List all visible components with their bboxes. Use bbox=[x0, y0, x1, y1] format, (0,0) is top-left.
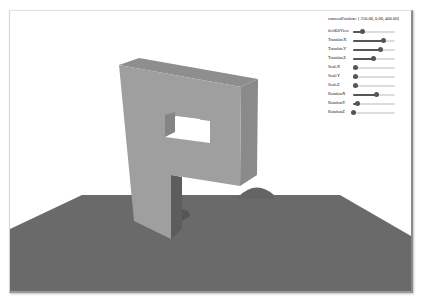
slider-thumb[interactable] bbox=[353, 74, 358, 79]
control-scale-z: ScaleZ bbox=[328, 82, 412, 90]
slider-label: RotationX bbox=[328, 92, 353, 96]
control-rotation-z: RotationZ bbox=[328, 109, 412, 117]
slider-thumb[interactable] bbox=[355, 101, 360, 106]
slider-label: RotationY bbox=[328, 101, 353, 105]
slider-label: ScaleY bbox=[328, 74, 353, 78]
scale-z-slider[interactable] bbox=[353, 83, 395, 89]
webgl-canvas[interactable]: cameraPosition: [ 250.00, 0.00, 400.00] … bbox=[9, 10, 413, 293]
slider-label: ScaleZ bbox=[328, 83, 353, 87]
slider-thumb[interactable] bbox=[378, 47, 383, 52]
slider-thumb[interactable] bbox=[353, 83, 358, 88]
control-scale-y: ScaleY bbox=[328, 73, 412, 81]
slider-label: TranslateY bbox=[328, 47, 353, 51]
slider-label: ScaleX bbox=[328, 65, 353, 69]
rotation-x-slider[interactable] bbox=[353, 92, 395, 98]
scale-y-slider[interactable] bbox=[353, 74, 395, 80]
control-translate-z: TranslateZ bbox=[328, 55, 412, 63]
camera-position-readout: cameraPosition: [ 250.00, 0.00, 400.00] bbox=[328, 17, 412, 22]
camera-position-value: [ 250.00, 0.00, 400.00] bbox=[358, 16, 399, 21]
slider-thumb[interactable] bbox=[381, 38, 386, 43]
slider-thumb[interactable] bbox=[360, 29, 365, 34]
slider-label: TranslateZ bbox=[328, 56, 353, 60]
slider-label: TranslateX bbox=[328, 38, 353, 42]
controls-panel: cameraPosition: [ 250.00, 0.00, 400.00] … bbox=[328, 17, 412, 118]
p-hole-inner bbox=[165, 112, 175, 137]
camera-position-label: cameraPosition: bbox=[328, 16, 357, 21]
translate-y-slider[interactable] bbox=[353, 47, 395, 53]
slider-thumb[interactable] bbox=[371, 56, 376, 61]
control-translate-y: TranslateY bbox=[328, 46, 412, 54]
translate-x-slider[interactable] bbox=[353, 38, 395, 44]
scale-x-slider[interactable] bbox=[353, 65, 395, 71]
p-leg-inner-face bbox=[171, 175, 182, 239]
rotation-z-slider[interactable] bbox=[353, 110, 395, 116]
slider-label: fieldOfView bbox=[328, 29, 353, 33]
control-rotation-y: RotationY bbox=[328, 100, 412, 108]
rotation-y-slider[interactable] bbox=[353, 101, 395, 107]
control-scale-x: ScaleX bbox=[328, 64, 412, 72]
slider-thumb[interactable] bbox=[374, 92, 379, 97]
ground-plane bbox=[10, 195, 411, 291]
sphere bbox=[238, 187, 274, 199]
control-translate-x: TranslateX bbox=[328, 37, 412, 45]
slider-label: RotationZ bbox=[328, 110, 353, 114]
control-field-of-view: fieldOfView bbox=[328, 28, 412, 36]
field-of-view-slider[interactable] bbox=[353, 29, 395, 35]
slider-list: fieldOfView TranslateX TranslateY Transl… bbox=[328, 28, 412, 117]
translate-z-slider[interactable] bbox=[353, 56, 395, 62]
slider-thumb[interactable] bbox=[353, 65, 358, 70]
p-side-face bbox=[240, 79, 258, 186]
slider-thumb[interactable] bbox=[351, 110, 356, 115]
control-rotation-x: RotationX bbox=[328, 91, 412, 99]
